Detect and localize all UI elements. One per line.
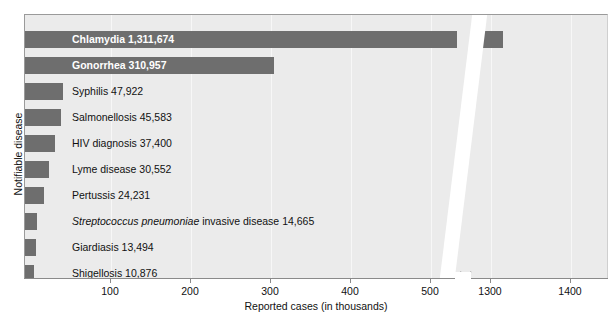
bar-salmonellosis[interactable]: [25, 109, 61, 126]
bar-label-hiv-diagnosis: HIV diagnosis 37,400: [72, 135, 172, 152]
bar-syphilis[interactable]: [25, 83, 63, 100]
bar-label-species-rest: invasive disease 14,665: [199, 215, 314, 227]
tick-label-100: 100: [101, 285, 119, 297]
bar-hiv-diagnosis[interactable]: [25, 135, 55, 152]
gridline-400: [351, 15, 352, 278]
gridline-500: [431, 15, 432, 278]
tick-label-1400: 1400: [558, 285, 581, 297]
bar-label-syphilis: Syphilis 47,922: [72, 83, 143, 100]
bar-label-streptococcus-pneumoniae: Streptococcus pneumoniae invasive diseas…: [72, 213, 314, 230]
y-axis-title: Notifiable disease: [12, 74, 24, 234]
x-axis-title: Reported cases (in thousands): [24, 300, 608, 312]
tick-mark-500: [430, 278, 431, 283]
tick-mark-400: [350, 278, 351, 283]
tick-label-400: 400: [341, 285, 359, 297]
tick-mark-1300: [490, 278, 491, 283]
bar-lyme-disease[interactable]: [25, 161, 49, 178]
bar-pertussis[interactable]: [25, 187, 44, 204]
tick-label-300: 300: [261, 285, 279, 297]
bar-label-salmonellosis: Salmonellosis 45,583: [72, 109, 172, 126]
bar-label-giardiasis: Giardiasis 13,494: [72, 239, 154, 256]
chart-figure: Notifiable disease Chlamydia 1,311,674 G…: [0, 0, 614, 333]
x-axis-break-mask: [455, 272, 471, 284]
bar-label-gonorrhea: Gonorrhea 310,957: [72, 57, 167, 74]
bar-label-lyme-disease: Lyme disease 30,552: [72, 161, 171, 178]
tick-label-200: 200: [181, 285, 199, 297]
bar-label-chlamydia: Chlamydia 1,311,674: [72, 31, 174, 48]
bar-giardiasis[interactable]: [25, 239, 36, 256]
tick-label-500: 500: [421, 285, 439, 297]
gridline-1400: [571, 15, 572, 278]
tick-mark-300: [270, 278, 271, 283]
tick-mark-200: [190, 278, 191, 283]
bar-label-shigellosis: Shigellosis 10,876: [72, 265, 157, 278]
tick-mark-1400: [570, 278, 571, 283]
axis-break-gap: [440, 14, 488, 278]
bar-label-species-italic: Streptococcus pneumoniae: [72, 215, 199, 227]
tick-label-1300: 1300: [478, 285, 501, 297]
bar-label-pertussis: Pertussis 24,231: [72, 187, 150, 204]
bar-streptococcus-pneumoniae[interactable]: [25, 213, 37, 230]
gridline-200: [191, 15, 192, 278]
gridline-300: [271, 15, 272, 278]
bar-shigellosis[interactable]: [25, 265, 34, 278]
gridline-1300: [491, 15, 492, 278]
tick-mark-100: [110, 278, 111, 283]
plot-area: Chlamydia 1,311,674 Gonorrhea 310,957 Sy…: [24, 14, 608, 278]
